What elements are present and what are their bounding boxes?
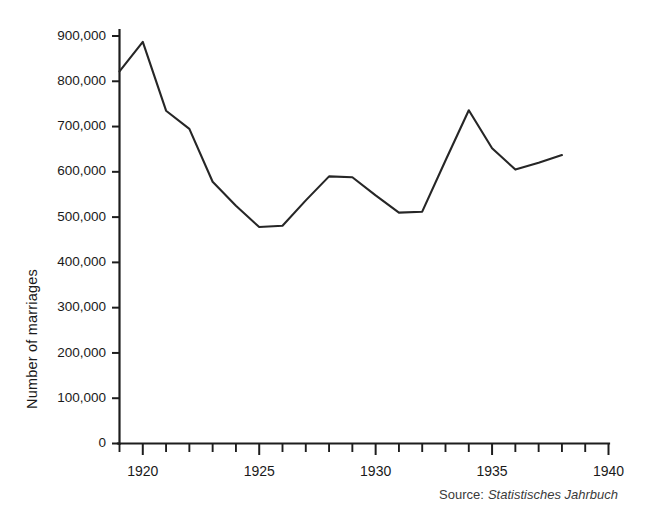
chart-plot-area: 0100,000200,000300,000400,000500,000600,… bbox=[0, 0, 652, 526]
x-tick-label-1940: 1940 bbox=[593, 463, 624, 479]
y-tick-label-600000: 600,000 bbox=[57, 163, 106, 178]
y-axis-group: 0100,000200,000300,000400,000500,000600,… bbox=[57, 28, 119, 451]
marriages-line-chart-figure: 0100,000200,000300,000400,000500,000600,… bbox=[0, 0, 652, 526]
data-series-group bbox=[120, 42, 562, 227]
series-line-number-of-marriages bbox=[120, 42, 562, 227]
x-axis-ticks bbox=[120, 444, 609, 456]
x-tick-label-1920: 1920 bbox=[127, 463, 158, 479]
y-axis-title: Number of marriages bbox=[24, 229, 40, 449]
y-tick-label-100000: 100,000 bbox=[57, 390, 106, 405]
source-label: Source: bbox=[439, 487, 484, 502]
y-tick-label-200000: 200,000 bbox=[57, 345, 106, 360]
y-tick-label-500000: 500,000 bbox=[57, 209, 106, 224]
y-tick-label-700000: 700,000 bbox=[57, 118, 106, 133]
y-tick-label-0: 0 bbox=[98, 435, 106, 450]
y-axis-tick-labels: 0100,000200,000300,000400,000500,000600,… bbox=[57, 28, 106, 451]
x-axis-group: 19201925193019351940 bbox=[118, 444, 624, 480]
x-tick-label-1930: 1930 bbox=[360, 463, 391, 479]
x-tick-label-1935: 1935 bbox=[476, 463, 507, 479]
source-publication-title: Statistisches Jahrbuch bbox=[488, 487, 618, 502]
y-tick-label-300000: 300,000 bbox=[57, 299, 106, 314]
y-tick-label-400000: 400,000 bbox=[57, 254, 106, 269]
x-tick-label-1925: 1925 bbox=[244, 463, 275, 479]
x-axis-tick-labels: 19201925193019351940 bbox=[127, 463, 624, 479]
y-tick-label-800000: 800,000 bbox=[57, 73, 106, 88]
y-tick-label-900000: 900,000 bbox=[57, 28, 106, 43]
source-note: Source:Statistisches Jahrbuch bbox=[439, 487, 618, 502]
y-axis-ticks bbox=[112, 36, 120, 444]
